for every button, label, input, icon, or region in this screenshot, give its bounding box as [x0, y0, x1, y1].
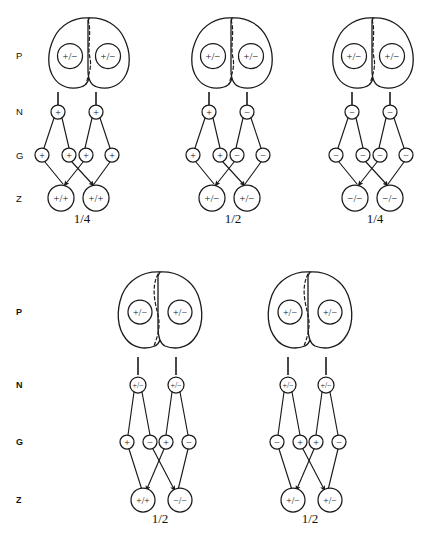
panel-1-g-label-2: + [66, 150, 72, 161]
panel-3-parent-cell: +/− +/− [333, 18, 414, 88]
panel-3-g-label-3: − [377, 150, 383, 161]
link-n2-g4 [251, 118, 261, 148]
panel-1-g-label-3: + [83, 150, 89, 161]
panel-5-n-label-1: +/− [282, 381, 294, 390]
link-n2-g3 [85, 118, 92, 148]
panel-4-g-label-1: + [124, 437, 130, 448]
row-label-p-bottom: P [16, 307, 22, 317]
parent-nucleus-left-label: +/− [283, 307, 297, 318]
link-g3-z1-cross [64, 162, 83, 186]
panel-4-z-label-1: +/+ [136, 496, 149, 506]
panel-1-fraction: 1/4 [74, 211, 91, 226]
panel-2-g-label-1: + [190, 150, 196, 161]
parent-nucleus-right-label: +/− [244, 51, 259, 62]
parent-nucleus-right-label: +/− [323, 307, 337, 318]
panel-4-n-label-2: +/− [170, 381, 182, 390]
panel-4-parent-cell: +/− +/− [118, 272, 202, 348]
panel-1-g-label-4: + [109, 150, 115, 161]
parent-nucleus-right-label: +/− [101, 51, 116, 62]
row-labels-top: P N G Z [16, 50, 24, 204]
row-label-z-top: Z [16, 193, 22, 204]
link-n1-g1 [128, 392, 134, 435]
link-n1-g2 [62, 118, 69, 148]
link-n1-g1 [278, 392, 284, 435]
link-g4-z2 [328, 449, 338, 490]
panel-2-parent-cell: +/− +/− [192, 18, 273, 88]
panel-4-n-label-1: +/− [132, 381, 144, 390]
parent-nucleus-left-label: +/− [206, 51, 221, 62]
panel-3-g-label-1: − [333, 150, 339, 161]
panel-2-z-label-1: +/− [205, 193, 220, 204]
link-g1-z1 [279, 449, 292, 490]
link-n2-g3 [236, 118, 243, 148]
panel-1: +/− +/− + + + + + + [35, 18, 129, 226]
panel-3-z-label-1: −/− [348, 193, 363, 204]
link-g3-z1-cross [215, 162, 234, 186]
panel-4-z-label-2: −/− [173, 496, 186, 506]
link-g1-z1 [45, 162, 63, 184]
link-g2-z2-cross [366, 162, 388, 186]
link-n1-g1 [338, 118, 348, 148]
panel-5-parent-cell: +/− +/− [268, 272, 352, 348]
link-g1-z1 [129, 449, 142, 490]
link-n2-g3 [316, 392, 322, 435]
link-g4-z2 [245, 162, 261, 184]
panel-5-g-label-4: − [336, 437, 342, 448]
link-n2-g4 [180, 392, 188, 435]
link-g2-z2-cross [303, 449, 325, 491]
panel-1-parent-cell: +/− +/− [49, 18, 130, 88]
link-n2-g4 [330, 392, 338, 435]
panel-5-fraction: 1/2 [302, 511, 319, 526]
panel-2: +/− +/− + − + + − − [186, 18, 272, 226]
parent-nucleus-right-label: +/− [173, 307, 187, 318]
row-label-p-top: P [16, 50, 23, 61]
panel-3-n-label-1: − [349, 107, 355, 118]
panel-2-g-label-3: − [234, 150, 240, 161]
link-g2-z2-cross [153, 449, 175, 491]
panel-5-z-label-2: +/− [323, 496, 336, 506]
parent-nucleus-left-label: +/− [63, 51, 78, 62]
panel-1-z-label-2: +/+ [89, 193, 104, 204]
genetics-segregation-figure: P N G Z P N G Z +/− +/− [0, 0, 429, 534]
panel-4-g-label-3: + [163, 437, 169, 448]
link-g4-z2 [178, 449, 188, 490]
link-g3-z1-cross [358, 162, 377, 186]
panel-3-n-label-2: − [387, 107, 393, 118]
panel-4-g-label-4: − [186, 437, 192, 448]
panel-2-z-label-2: +/− [240, 193, 255, 204]
panel-1-n-label-1: + [55, 107, 61, 118]
link-n1-g2 [292, 392, 300, 435]
link-n1-g2 [213, 118, 220, 148]
row-label-g-top: G [16, 150, 24, 161]
link-n1-g2 [356, 118, 363, 148]
panel-2-g-label-4: − [260, 150, 266, 161]
link-g3-z1-cross [296, 449, 314, 491]
panel-5-g-label-2: + [297, 437, 303, 448]
panel-1-z-label-1: +/+ [54, 193, 69, 204]
panel-3: +/− +/− − − − − − − [329, 18, 413, 226]
link-g1-z1 [339, 162, 357, 184]
link-n1-g2 [142, 392, 150, 435]
panel-3-z-label-2: −/− [383, 193, 398, 204]
panel-5-n-label-2: +/− [320, 381, 332, 390]
link-g4-z2 [94, 162, 110, 184]
row-label-n-top: N [16, 106, 23, 117]
link-n2-g3 [379, 118, 386, 148]
panel-3-fraction: 1/4 [367, 211, 384, 226]
row-label-g-bottom: G [16, 437, 23, 447]
link-g2-z2-cross [72, 162, 94, 186]
link-n1-g1 [195, 118, 205, 148]
row-label-z-bottom: Z [16, 495, 22, 505]
panel-4-fraction: 1/2 [152, 511, 169, 526]
parent-nucleus-left-label: +/− [347, 51, 362, 62]
parent-nucleus-right-label: +/− [385, 51, 400, 62]
link-n2-g3 [166, 392, 172, 435]
link-n2-g4 [394, 118, 404, 148]
row-label-n-bottom: N [16, 380, 23, 390]
panel-4: +/− +/− +/− +/− + − + − [118, 272, 202, 526]
panel-5-g-label-3: + [313, 437, 319, 448]
link-g1-z1 [196, 162, 214, 184]
link-n2-g4 [100, 118, 110, 148]
row-labels-bottom: P N G Z [16, 307, 23, 505]
panel-4-g-label-2: − [147, 437, 153, 448]
